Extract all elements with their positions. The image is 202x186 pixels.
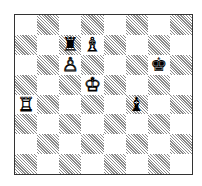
square-c3[interactable] bbox=[59, 114, 81, 134]
square-g2[interactable] bbox=[148, 134, 170, 154]
square-h4[interactable] bbox=[170, 95, 192, 115]
square-a1[interactable] bbox=[15, 154, 37, 174]
square-g4[interactable] bbox=[148, 95, 170, 115]
square-d4[interactable] bbox=[81, 95, 103, 115]
white-pawn-icon[interactable]: ♙ bbox=[62, 55, 79, 74]
white-bishop-icon[interactable]: ♗ bbox=[84, 35, 101, 54]
square-e6[interactable] bbox=[104, 55, 126, 75]
square-b1[interactable] bbox=[37, 154, 59, 174]
square-d6[interactable] bbox=[81, 55, 103, 75]
square-b7[interactable] bbox=[37, 35, 59, 55]
square-f8[interactable] bbox=[126, 15, 148, 35]
square-d5[interactable]: ♔ bbox=[81, 75, 103, 95]
square-h5[interactable] bbox=[170, 75, 192, 95]
square-a6[interactable] bbox=[15, 55, 37, 75]
square-a2[interactable] bbox=[15, 134, 37, 154]
square-h2[interactable] bbox=[170, 134, 192, 154]
square-h6[interactable] bbox=[170, 55, 192, 75]
square-f5[interactable] bbox=[126, 75, 148, 95]
square-c7[interactable]: ♜ bbox=[59, 35, 81, 55]
square-a7[interactable] bbox=[15, 35, 37, 55]
square-b5[interactable] bbox=[37, 75, 59, 95]
square-c4[interactable] bbox=[59, 95, 81, 115]
square-e5[interactable] bbox=[104, 75, 126, 95]
square-g5[interactable] bbox=[148, 75, 170, 95]
square-g3[interactable] bbox=[148, 114, 170, 134]
square-f4[interactable]: ♝ bbox=[126, 95, 148, 115]
square-c2[interactable] bbox=[59, 134, 81, 154]
square-g8[interactable] bbox=[148, 15, 170, 35]
square-b4[interactable] bbox=[37, 95, 59, 115]
square-h1[interactable] bbox=[170, 154, 192, 174]
square-h8[interactable] bbox=[170, 15, 192, 35]
square-d2[interactable] bbox=[81, 134, 103, 154]
square-b3[interactable] bbox=[37, 114, 59, 134]
square-f3[interactable] bbox=[126, 114, 148, 134]
square-e2[interactable] bbox=[104, 134, 126, 154]
chess-board[interactable]: ♜♗♙♚♔♖♝ bbox=[14, 14, 193, 175]
square-e8[interactable] bbox=[104, 15, 126, 35]
square-c5[interactable] bbox=[59, 75, 81, 95]
square-f1[interactable] bbox=[126, 154, 148, 174]
square-a8[interactable] bbox=[15, 15, 37, 35]
square-f7[interactable] bbox=[126, 35, 148, 55]
square-b6[interactable] bbox=[37, 55, 59, 75]
white-rook-icon[interactable]: ♖ bbox=[18, 95, 35, 114]
square-e3[interactable] bbox=[104, 114, 126, 134]
square-f2[interactable] bbox=[126, 134, 148, 154]
square-c8[interactable] bbox=[59, 15, 81, 35]
black-rook-icon[interactable]: ♜ bbox=[62, 35, 79, 54]
square-d3[interactable] bbox=[81, 114, 103, 134]
white-king-icon[interactable]: ♔ bbox=[84, 75, 101, 94]
square-g1[interactable] bbox=[148, 154, 170, 174]
black-bishop-icon[interactable]: ♝ bbox=[128, 95, 145, 114]
square-h3[interactable] bbox=[170, 114, 192, 134]
square-e1[interactable] bbox=[104, 154, 126, 174]
black-king-icon[interactable]: ♚ bbox=[150, 55, 167, 74]
square-a4[interactable]: ♖ bbox=[15, 95, 37, 115]
square-a3[interactable] bbox=[15, 114, 37, 134]
square-h7[interactable] bbox=[170, 35, 192, 55]
square-d8[interactable] bbox=[81, 15, 103, 35]
square-c6[interactable]: ♙ bbox=[59, 55, 81, 75]
square-b2[interactable] bbox=[37, 134, 59, 154]
square-b8[interactable] bbox=[37, 15, 59, 35]
square-g6[interactable]: ♚ bbox=[148, 55, 170, 75]
square-g7[interactable] bbox=[148, 35, 170, 55]
square-d1[interactable] bbox=[81, 154, 103, 174]
square-a5[interactable] bbox=[15, 75, 37, 95]
square-f6[interactable] bbox=[126, 55, 148, 75]
square-e4[interactable] bbox=[104, 95, 126, 115]
square-d7[interactable]: ♗ bbox=[81, 35, 103, 55]
square-e7[interactable] bbox=[104, 35, 126, 55]
square-c1[interactable] bbox=[59, 154, 81, 174]
